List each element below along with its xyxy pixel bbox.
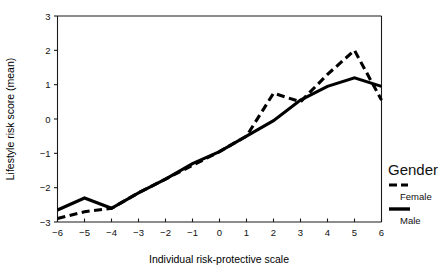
plot-frame bbox=[58, 16, 382, 222]
y-tick-label: 3 bbox=[45, 11, 50, 22]
y-axis-title: Lifestyle risk score (mean) bbox=[4, 58, 16, 181]
x-tick-label: 2 bbox=[271, 227, 276, 238]
series-line-female bbox=[58, 50, 382, 218]
x-tick-label: −1 bbox=[187, 227, 198, 238]
x-tick-label: −4 bbox=[106, 227, 117, 238]
x-axis-title: Individual risk-protective scale bbox=[149, 253, 289, 265]
x-tick-label: −6 bbox=[52, 227, 63, 238]
line-chart: −3−2−10123 −6−5−4−3−2−10123456 Individua… bbox=[0, 0, 446, 275]
x-tick-label: 1 bbox=[244, 227, 249, 238]
y-tick-label: −2 bbox=[40, 182, 51, 193]
x-tick-label: −5 bbox=[79, 227, 90, 238]
legend-label-male: Male bbox=[400, 215, 421, 226]
x-tick-label: −3 bbox=[133, 227, 144, 238]
x-tick-label: 4 bbox=[325, 227, 330, 238]
chart-legend: Gender Female Male bbox=[388, 161, 438, 226]
x-axis-ticks: −6−5−4−3−2−10123456 bbox=[52, 219, 384, 239]
x-tick-label: 5 bbox=[352, 227, 357, 238]
y-tick-label: 1 bbox=[45, 79, 50, 90]
chart-figure: −3−2−10123 −6−5−4−3−2−10123456 Individua… bbox=[0, 0, 446, 275]
y-axis-ticks: −3−2−10123 bbox=[40, 11, 58, 228]
series-group bbox=[58, 50, 382, 218]
legend-label-female: Female bbox=[400, 191, 432, 202]
y-tick-label: 0 bbox=[45, 114, 50, 125]
y-tick-label: 2 bbox=[45, 45, 50, 56]
y-tick-label: −1 bbox=[40, 148, 51, 159]
x-tick-label: −2 bbox=[160, 227, 171, 238]
x-tick-label: 6 bbox=[379, 227, 384, 238]
x-tick-label: 3 bbox=[298, 227, 303, 238]
y-tick-label: −3 bbox=[40, 217, 51, 228]
legend-title: Gender bbox=[388, 161, 438, 178]
series-line-male bbox=[58, 78, 382, 210]
x-tick-label: 0 bbox=[217, 227, 222, 238]
